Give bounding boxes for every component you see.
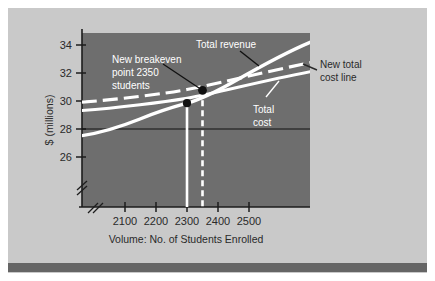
new-breakeven-annotation-line-3: students: [112, 80, 150, 91]
new-breakeven-point-marker: [198, 86, 207, 95]
new-total-cost-annotation-line-1: New total: [320, 59, 362, 70]
new-breakeven-annotation-line-2: point 2350: [112, 67, 159, 78]
new-total-cost-line-annotation: New total cost line: [320, 59, 362, 83]
y-tick-label-26: 26: [60, 151, 72, 163]
y-tick-label-32: 32: [60, 67, 72, 79]
total-cost-annotation-line-2: cost: [253, 117, 272, 128]
old-breakeven-point-marker: [183, 99, 191, 107]
x-tick-label-2200: 2200: [144, 215, 168, 227]
x-tick-label-2100: 2100: [113, 215, 137, 227]
x-axis-title: Volume: No. of Students Enrolled: [109, 233, 264, 245]
chart-svg: 34 32 30 28 26 $ (millions) 2100 2200 23…: [0, 0, 435, 281]
figure-page: 34 32 30 28 26 $ (millions) 2100 2200 23…: [0, 0, 435, 281]
y-tick-label-34: 34: [60, 39, 72, 51]
y-tick-label-30: 30: [60, 95, 72, 107]
y-tick-label-28: 28: [60, 123, 72, 135]
x-tick-label-2300: 2300: [175, 215, 199, 227]
total-cost-annotation-line-1: Total: [253, 104, 274, 115]
new-total-cost-annotation-line-2: cost line: [320, 72, 357, 83]
x-tick-label-2500: 2500: [237, 215, 261, 227]
breakeven-chart: 34 32 30 28 26 $ (millions) 2100 2200 23…: [0, 0, 435, 281]
total-revenue-annotation: Total revenue: [196, 39, 256, 50]
new-breakeven-annotation-line-1: New breakeven: [112, 54, 181, 65]
x-tick-label-2400: 2400: [206, 215, 230, 227]
y-axis-title: $ (millions): [43, 95, 55, 146]
